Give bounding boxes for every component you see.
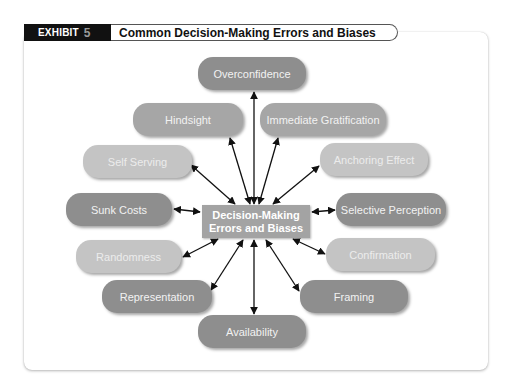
center-node: Decision-Making Errors and Biases [202, 205, 310, 238]
arrow-selective-perception [312, 210, 335, 212]
arrow-framing [266, 240, 299, 291]
node-immediate-gratification: Immediate Gratification [260, 103, 386, 136]
arrow-self-serving [191, 165, 235, 204]
center-line-1: Decision-Making [202, 209, 310, 222]
arrow-sunk-costs [174, 209, 200, 212]
node-representation: Representation [102, 280, 212, 313]
arrow-hindsight [230, 138, 250, 204]
arrow-confirmation [293, 239, 325, 254]
node-framing: Framing [300, 280, 408, 313]
node-hindsight: Hindsight [133, 103, 243, 136]
node-sunk-costs: Sunk Costs [66, 193, 172, 226]
node-confirmation: Confirmation [326, 238, 435, 271]
arrow-immediate-gratification [259, 138, 278, 204]
node-randomness: Randomness [76, 240, 181, 273]
node-overconfidence: Overconfidence [198, 57, 306, 90]
node-availability: Availability [198, 315, 306, 348]
node-anchoring-effect: Anchoring Effect [320, 143, 428, 176]
node-self-serving: Self Serving [83, 145, 192, 178]
arrow-randomness [183, 239, 218, 257]
arrow-anchoring-effect [273, 166, 319, 204]
center-line-2: Errors and Biases [202, 222, 310, 235]
arrow-representation [211, 240, 243, 290]
node-selective-perception: Selective Perception [336, 193, 446, 226]
